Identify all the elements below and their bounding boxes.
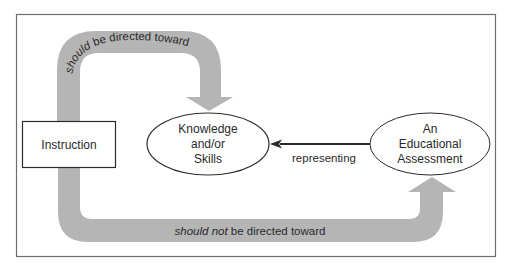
assessment-label-line-2: Educational (399, 137, 462, 151)
representing-label: representing (292, 152, 356, 164)
assessment-label-line-1: An (423, 122, 438, 136)
knowledge-node: Knowledge and/or Skills (147, 113, 269, 175)
assessment-label-line-3: Assessment (397, 152, 463, 166)
bottom-arc-label: should not be directed toward (175, 225, 326, 237)
instruction-node: Instruction (23, 122, 116, 168)
instruction-label: Instruction (41, 138, 96, 152)
diagram-canvas: should be directed toward should not be … (0, 0, 506, 266)
knowledge-label-line-3: Skills (194, 152, 222, 166)
knowledge-label-line-1: Knowledge (178, 122, 238, 136)
assessment-node: An Educational Assessment (370, 113, 490, 175)
knowledge-label-line-2: and/or (191, 137, 225, 151)
